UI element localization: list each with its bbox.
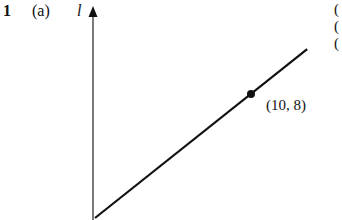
y-axis-arrowhead-icon <box>89 6 98 17</box>
series-line <box>95 49 307 218</box>
clipped-text-fragment: ( <box>334 36 339 51</box>
marked-point <box>247 90 255 98</box>
point-label: (10, 8) <box>266 98 306 113</box>
clipped-text-fragment: ( <box>334 2 339 17</box>
clipped-text-fragment: ( <box>334 19 339 34</box>
